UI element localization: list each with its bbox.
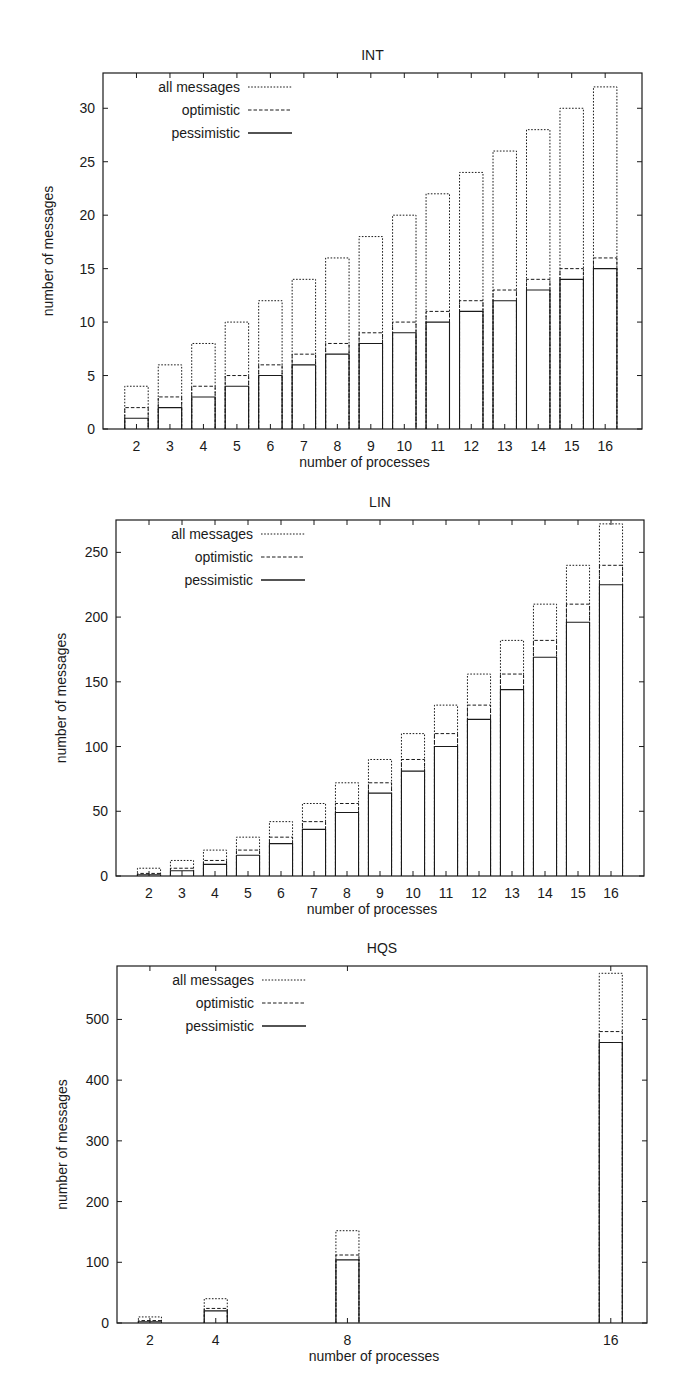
- y-tick-label: 300: [86, 1133, 110, 1149]
- y-tick-label: 400: [86, 1072, 110, 1088]
- x-axis-label: number of processes: [307, 901, 438, 917]
- x-tick-label: 14: [530, 438, 546, 454]
- x-axis-label: number of processes: [309, 1348, 440, 1364]
- bar-all-messages: [401, 734, 424, 876]
- chart-title: LIN: [369, 494, 391, 510]
- bar-all-messages: [335, 783, 358, 876]
- bar-group-9: [368, 759, 391, 876]
- y-axis-label: number of messages: [53, 633, 69, 764]
- x-tick-label: 7: [310, 885, 318, 901]
- bar-optimistic: [533, 640, 556, 876]
- bar-all-messages: [599, 524, 622, 876]
- bar-all-messages: [302, 804, 325, 876]
- bar-group-5: [236, 837, 259, 876]
- bar-pessimistic: [326, 354, 349, 429]
- bar-all-messages: [566, 565, 589, 876]
- x-tick-label: 4: [200, 438, 208, 454]
- legend-label: pessimistic: [186, 1018, 254, 1034]
- bar-optimistic: [599, 565, 622, 876]
- y-axis-label: number of messages: [40, 186, 56, 317]
- y-tick-label: 0: [100, 868, 108, 884]
- legend-label: all messages: [171, 526, 253, 542]
- bar-group-13: [493, 151, 516, 429]
- bar-group-6: [259, 301, 282, 429]
- bar-pessimistic: [500, 690, 523, 876]
- x-tick-label: 6: [277, 885, 285, 901]
- y-tick-label: 200: [85, 609, 109, 625]
- bar-pessimistic: [368, 793, 391, 876]
- bar-pessimistic: [401, 771, 424, 876]
- x-tick-label: 10: [397, 438, 413, 454]
- bar-optimistic: [368, 783, 391, 876]
- bar-group-14: [527, 130, 550, 429]
- y-tick-label: 500: [86, 1011, 110, 1027]
- y-tick-label: 20: [79, 207, 95, 223]
- x-tick-label: 15: [564, 438, 580, 454]
- bar-group-16: [593, 87, 616, 429]
- bar-group-14: [533, 604, 556, 876]
- x-tick-label: 8: [333, 438, 341, 454]
- bar-group-13: [500, 640, 523, 876]
- bar-all-messages: [236, 837, 259, 876]
- chart-title: HQS: [367, 940, 397, 956]
- x-tick-label: 12: [471, 885, 487, 901]
- x-tick-label: 8: [343, 885, 351, 901]
- bar-group-16: [599, 524, 622, 876]
- bar-pessimistic: [593, 269, 616, 429]
- x-tick-label: 3: [178, 885, 186, 901]
- chart-int: INT0510152025302345678910111213141516num…: [40, 47, 642, 470]
- x-tick-label: 4: [211, 885, 219, 901]
- bar-group-6: [269, 822, 292, 876]
- legend-label: optimistic: [196, 995, 254, 1011]
- chart-title: INT: [361, 47, 384, 63]
- bar-group-15: [566, 565, 589, 876]
- bar-pessimistic: [493, 301, 516, 429]
- y-tick-label: 50: [92, 803, 108, 819]
- x-tick-label: 13: [497, 438, 513, 454]
- bar-pessimistic: [533, 657, 556, 876]
- legend-label: optimistic: [182, 102, 240, 118]
- x-tick-label: 8: [344, 1332, 352, 1348]
- bar-group-8: [336, 1231, 359, 1323]
- bar-pessimistic: [560, 279, 583, 429]
- bar-optimistic: [566, 604, 589, 876]
- bar-all-messages: [599, 973, 622, 1323]
- x-tick-label: 5: [233, 438, 241, 454]
- figure: INT0510152025302345678910111213141516num…: [0, 0, 687, 1396]
- bar-optimistic: [192, 386, 215, 429]
- bar-all-messages: [336, 1231, 359, 1323]
- bar-optimistic: [359, 333, 382, 429]
- bar-group-7: [292, 279, 315, 429]
- y-tick-label: 200: [86, 1194, 110, 1210]
- x-tick-label: 2: [146, 1332, 154, 1348]
- bar-optimistic: [401, 759, 424, 876]
- legend-label: pessimistic: [172, 125, 240, 141]
- x-tick-label: 6: [266, 438, 274, 454]
- legend: all messagesoptimisticpessimistic: [158, 79, 292, 141]
- bar-all-messages: [434, 705, 457, 876]
- bar-optimistic: [335, 804, 358, 876]
- x-tick-label: 2: [133, 438, 141, 454]
- bar-group-11: [434, 705, 457, 876]
- x-tick-label: 10: [405, 885, 421, 901]
- bar-pessimistic: [292, 365, 315, 429]
- bar-optimistic: [225, 376, 248, 429]
- x-tick-label: 9: [376, 885, 384, 901]
- legend-label: pessimistic: [185, 572, 253, 588]
- y-tick-label: 25: [79, 154, 95, 170]
- bar-pessimistic: [460, 311, 483, 429]
- x-tick-label: 11: [439, 885, 454, 901]
- bar-group-5: [225, 322, 248, 429]
- bar-all-messages: [269, 822, 292, 876]
- bar-group-10: [401, 734, 424, 876]
- bar-group-8: [326, 258, 349, 429]
- bar-pessimistic: [225, 386, 248, 429]
- x-tick-label: 15: [570, 885, 586, 901]
- bar-group-15: [560, 108, 583, 429]
- y-tick-label: 5: [87, 368, 95, 384]
- bar-optimistic: [259, 365, 282, 429]
- x-tick-label: 14: [537, 885, 553, 901]
- bar-optimistic: [460, 301, 483, 429]
- bar-group-4: [192, 343, 215, 429]
- bar-optimistic: [593, 258, 616, 429]
